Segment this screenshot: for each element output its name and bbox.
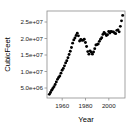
data-point — [84, 41, 87, 44]
data-point — [93, 47, 96, 50]
x-tick-label: 2000 — [102, 102, 116, 109]
data-point — [70, 46, 73, 49]
x-axis-tick-labels: 1960 1980 2000 — [55, 102, 116, 109]
data-point — [68, 53, 71, 56]
data-point — [121, 14, 124, 17]
scatter-plot: 2.5e+07 2.0e+07 1.5e+07 1.0e+07 5.0e+06 … — [0, 0, 130, 129]
x-tick-label: 1960 — [55, 102, 69, 109]
data-point — [58, 75, 61, 78]
data-point — [73, 37, 76, 40]
y-tick-label: 2.5e+07 — [20, 18, 43, 25]
y-tick-label: 1.0e+07 — [20, 68, 43, 75]
data-point — [100, 36, 103, 39]
data-point — [71, 42, 74, 45]
data-point — [76, 32, 79, 35]
data-point — [69, 50, 72, 53]
y-tick-label: 1.5e+07 — [20, 51, 43, 58]
y-axis-title: CubicFeet — [3, 36, 12, 71]
data-point — [55, 80, 58, 83]
data-point — [87, 53, 90, 56]
x-tick-label: 1980 — [79, 102, 93, 109]
y-tick-label: 2.0e+07 — [20, 35, 43, 42]
x-axis-title: Year — [78, 115, 94, 124]
data-point — [106, 33, 109, 36]
y-tick-label: 5.0e+06 — [20, 84, 43, 91]
data-point — [63, 64, 66, 67]
data-point — [97, 42, 100, 45]
data-point — [118, 30, 121, 33]
data-point — [83, 38, 86, 41]
data-point — [62, 67, 65, 70]
data-point — [120, 19, 123, 22]
data-point — [77, 34, 80, 37]
chart-figure: 2.5e+07 2.0e+07 1.5e+07 1.0e+07 5.0e+06 … — [0, 0, 130, 129]
data-point — [119, 25, 122, 28]
data-point — [54, 83, 57, 86]
data-point — [92, 50, 95, 53]
data-point — [60, 72, 63, 75]
data-point — [114, 32, 117, 35]
data-point — [67, 56, 70, 59]
data-point — [65, 59, 68, 62]
data-point — [85, 45, 88, 48]
